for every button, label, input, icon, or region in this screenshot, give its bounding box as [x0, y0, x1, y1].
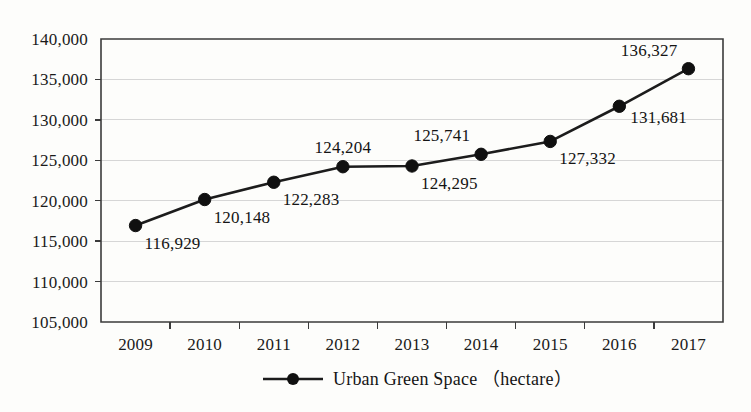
data-point-marker — [337, 161, 349, 173]
x-tick-label: 2016 — [602, 335, 637, 354]
x-tick-label: 2010 — [187, 335, 222, 354]
x-axis-tick-labels: 200920102011201220132014201520162017 — [118, 335, 706, 354]
data-value-label: 124,295 — [421, 174, 478, 193]
x-tick-label: 2013 — [395, 335, 430, 354]
data-value-label: 127,332 — [559, 149, 616, 168]
data-point-marker — [475, 148, 487, 160]
data-point-marker — [268, 176, 280, 188]
line-chart: 105,000110,000115,000120,000125,000130,0… — [0, 0, 751, 412]
data-point-marker — [613, 100, 625, 112]
y-tick-label: 140,000 — [31, 30, 88, 49]
data-point-marker — [129, 219, 141, 231]
x-tick-label: 2011 — [257, 335, 291, 354]
data-value-label: 116,929 — [145, 234, 201, 253]
data-value-label: 122,283 — [283, 190, 340, 209]
legend-marker-icon — [287, 373, 299, 385]
data-point-marker — [544, 135, 556, 147]
y-tick-label: 130,000 — [31, 111, 88, 130]
data-value-label: 125,741 — [413, 126, 470, 145]
data-point-marker — [406, 160, 418, 172]
y-tick-label: 110,000 — [32, 273, 88, 292]
y-tick-label: 135,000 — [31, 70, 88, 89]
y-tick-label: 120,000 — [31, 192, 88, 211]
chart-background — [0, 0, 751, 412]
data-value-label: 136,327 — [621, 41, 678, 60]
x-tick-label: 2015 — [533, 335, 568, 354]
data-value-label: 120,148 — [214, 208, 271, 227]
legend-label: Urban Green Space （hectare） — [333, 369, 572, 389]
data-point-marker — [682, 62, 694, 74]
x-tick-label: 2009 — [118, 335, 153, 354]
data-value-label: 131,681 — [630, 108, 687, 127]
chart-container: 105,000110,000115,000120,000125,000130,0… — [0, 0, 751, 412]
x-tick-label: 2017 — [671, 335, 706, 354]
data-value-label: 124,204 — [315, 138, 372, 157]
x-tick-label: 2012 — [325, 335, 360, 354]
y-tick-label: 115,000 — [32, 232, 88, 251]
x-tick-label: 2014 — [464, 335, 499, 354]
y-tick-label: 125,000 — [31, 151, 88, 170]
data-point-marker — [198, 193, 210, 205]
y-tick-label: 105,000 — [31, 313, 88, 332]
